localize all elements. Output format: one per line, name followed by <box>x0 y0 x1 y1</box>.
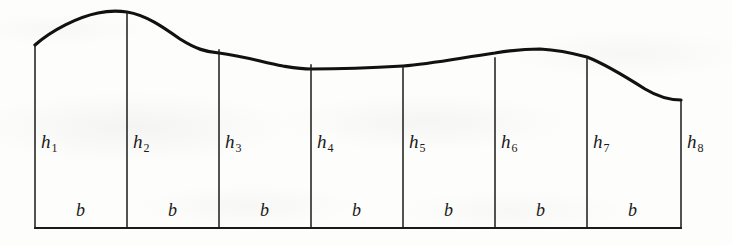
height-label-h8: h8 <box>687 132 703 151</box>
width-label-b3: b <box>260 201 269 219</box>
trapezoidal-rule-figure <box>0 0 732 245</box>
height-label-base: h <box>687 131 697 152</box>
height-label-h5: h5 <box>409 132 425 151</box>
height-label-subscript: 8 <box>698 141 704 155</box>
width-label-b7: b <box>628 201 637 219</box>
height-label-subscript: 2 <box>144 141 150 155</box>
height-label-subscript: 5 <box>420 141 426 155</box>
width-label-b1: b <box>76 201 85 219</box>
figure-container: h1h2h3h4h5h6h7h8 bbbbbbb <box>0 0 732 245</box>
width-label-b5: b <box>444 201 453 219</box>
height-label-base: h <box>317 131 327 152</box>
height-label-subscript: 1 <box>52 141 58 155</box>
height-label-h2: h2 <box>133 132 149 151</box>
height-label-base: h <box>501 131 511 152</box>
width-label-b4: b <box>352 201 361 219</box>
height-label-base: h <box>593 131 603 152</box>
height-label-h4: h4 <box>317 132 333 151</box>
height-label-h3: h3 <box>225 132 241 151</box>
height-label-h1: h1 <box>41 132 57 151</box>
height-label-base: h <box>225 131 235 152</box>
ordinate-lines-group <box>35 12 681 228</box>
height-label-base: h <box>133 131 143 152</box>
height-label-subscript: 7 <box>604 141 610 155</box>
width-label-b2: b <box>168 201 177 219</box>
height-label-base: h <box>409 131 419 152</box>
height-label-h6: h6 <box>501 132 517 151</box>
height-label-subscript: 6 <box>512 141 518 155</box>
curve-top-boundary <box>35 11 681 100</box>
height-label-subscript: 4 <box>328 141 334 155</box>
width-label-b6: b <box>536 201 545 219</box>
height-label-base: h <box>41 131 51 152</box>
height-label-subscript: 3 <box>236 141 242 155</box>
height-label-h7: h7 <box>593 132 609 151</box>
